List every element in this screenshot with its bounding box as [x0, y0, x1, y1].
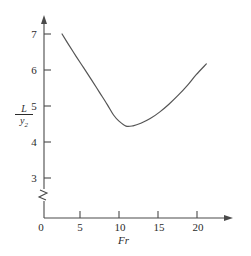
x-tick-label-10: 10: [112, 222, 128, 233]
y-axis-break-icon: [39, 190, 47, 200]
y-axis-label: L y2: [13, 103, 35, 131]
y-tick-label-7: 7: [28, 29, 40, 40]
data-series-line: [62, 34, 206, 127]
x-tick-label-5: 5: [74, 222, 86, 233]
x-tick-label-20: 20: [190, 222, 206, 233]
y-axis-label-denominator: y2: [13, 115, 35, 131]
x-axis-label: Fr: [118, 234, 129, 246]
y-axis-ticks: [44, 34, 51, 178]
y-tick-label-4: 4: [28, 137, 40, 148]
y-axis-label-numerator: L: [13, 103, 35, 114]
x-axis-arrow-icon: [224, 215, 233, 221]
y-tick-label-6: 6: [28, 65, 40, 76]
x-axis-ticks: [80, 211, 197, 218]
x-tick-label-15: 15: [151, 222, 167, 233]
y-tick-label-3: 3: [28, 173, 40, 184]
y-axis-arrow-icon: [41, 15, 47, 24]
x-tick-label-0: 0: [35, 222, 47, 233]
chart-figure: 7 6 5 4 3 0 5 10 15 20 L y2 Fr: [0, 0, 251, 256]
